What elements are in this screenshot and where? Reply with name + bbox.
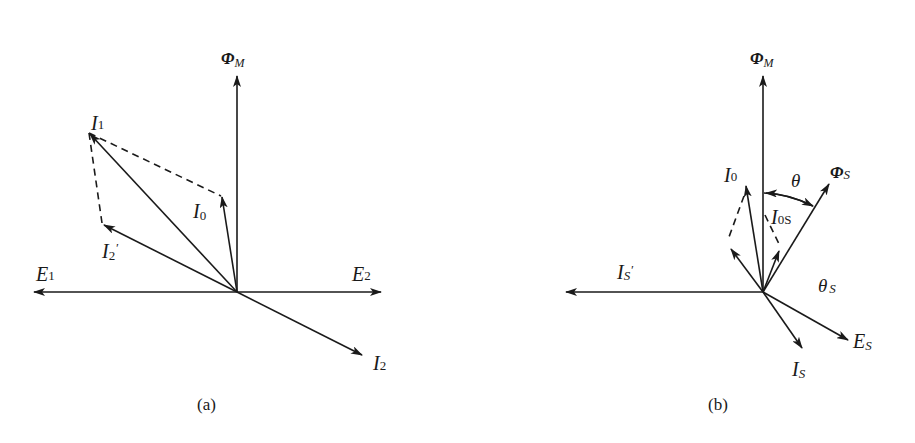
i0s-vector bbox=[763, 251, 779, 292]
label-phi-s: ΦS bbox=[830, 163, 850, 182]
label-is: IS bbox=[791, 358, 806, 381]
i0-component-left-vector bbox=[731, 249, 763, 292]
label-i2: I2 bbox=[372, 352, 386, 374]
caption-a: (a) bbox=[197, 395, 216, 414]
caption-b: (b) bbox=[708, 395, 728, 414]
label-phi-m-a: ΦM bbox=[221, 49, 245, 70]
i0-vector-b bbox=[746, 186, 763, 292]
i2-prime-vector bbox=[104, 225, 237, 292]
diagram-a: ΦM I1 I0 I2′ E1 E2 I2 (a) bbox=[34, 49, 386, 414]
dashed-i0-left bbox=[729, 196, 744, 237]
diagram-b: ΦM I0 θ ΦS I0S IS′ θS ES IS (b) bbox=[566, 49, 872, 414]
label-e1: E1 bbox=[35, 263, 55, 285]
theta-arc-back bbox=[766, 193, 813, 206]
phasor-diagrams: ΦM I1 I0 I2′ E1 E2 I2 (a) ΦM I0 θ ΦS I0S… bbox=[0, 0, 915, 443]
label-is-prime: IS′ bbox=[616, 261, 633, 283]
dashed-i1-i2prime bbox=[89, 133, 102, 223]
label-i2-prime: I2′ bbox=[101, 240, 118, 263]
label-e2: E2 bbox=[351, 263, 371, 285]
i1-vector bbox=[90, 134, 237, 292]
label-theta-s: θS bbox=[818, 275, 836, 296]
label-i0s: I0S bbox=[770, 206, 791, 228]
is-vector bbox=[763, 292, 802, 348]
label-i0-a: I0 bbox=[192, 200, 206, 223]
label-phi-m-b: ΦM bbox=[750, 49, 774, 70]
label-es: ES bbox=[852, 330, 872, 353]
label-theta: θ bbox=[791, 170, 800, 191]
dashed-i1-i0 bbox=[89, 133, 221, 196]
theta-arc bbox=[764, 193, 813, 206]
es-vector bbox=[763, 292, 848, 340]
i2-vector bbox=[237, 292, 362, 355]
label-i0-b: I0 bbox=[723, 164, 737, 186]
label-i1: I1 bbox=[90, 112, 104, 134]
